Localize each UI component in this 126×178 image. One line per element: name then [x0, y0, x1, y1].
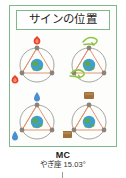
caption-mc-label: MC	[0, 150, 126, 160]
orbit-node	[20, 71, 25, 76]
orbit-node	[20, 128, 25, 133]
page-title: サインの位置	[29, 14, 97, 26]
soil-block-icon	[84, 92, 94, 99]
quadrant-grid	[11, 32, 115, 145]
flame-icon	[34, 36, 41, 44]
caption-sign-position: やぎ座 15.03°	[0, 160, 126, 169]
orbit-node	[87, 46, 92, 51]
diagram-panel: サインの位置	[9, 5, 117, 147]
orbit-diagram-earth	[72, 103, 107, 139]
earth-globe	[83, 59, 95, 71]
wind-swirl-icon	[83, 38, 97, 46]
orbit-node	[35, 103, 40, 108]
orbit-node	[50, 128, 55, 133]
figure-title-box: サインの位置	[16, 10, 110, 30]
orbit-node	[72, 128, 77, 133]
water-drop-icon	[12, 131, 18, 140]
earth-globe	[83, 116, 95, 128]
fire-quadrant	[11, 32, 63, 88]
air-quadrant	[63, 32, 115, 88]
earth-quadrant	[63, 89, 115, 145]
orbit-node	[35, 46, 40, 51]
figure-caption: MC やぎ座 15.03°	[0, 150, 126, 169]
orbit-diagram-fire	[20, 46, 55, 82]
flame-icon	[12, 75, 19, 83]
soil-block-icon	[63, 131, 72, 138]
sign-position-figure: サインの位置	[0, 0, 126, 178]
earth-globe	[31, 116, 43, 128]
orbit-node	[50, 71, 55, 76]
caption-tick-mark	[62, 172, 63, 178]
orbit-node	[102, 128, 107, 133]
water-quadrant	[11, 89, 63, 145]
orbit-diagram-water	[20, 103, 55, 139]
orbit-node	[102, 71, 107, 76]
earth-globe	[31, 59, 43, 71]
water-drop-icon	[34, 92, 40, 101]
orbit-node	[87, 103, 92, 108]
